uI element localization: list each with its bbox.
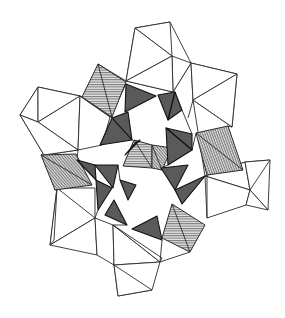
polyhedron-edge xyxy=(192,133,196,150)
octahedron-face xyxy=(95,218,114,265)
polyhedron-edge xyxy=(118,165,120,180)
polyhedron-edge xyxy=(182,110,192,134)
dark-tetrahedron xyxy=(125,84,156,112)
dark-tetrahedron xyxy=(132,216,162,240)
dark-tetrahedron xyxy=(105,200,127,225)
polyhedra-diagram xyxy=(0,0,285,318)
hatched-polyhedron xyxy=(196,126,243,175)
dark-tetrahedron xyxy=(120,180,136,200)
polyhedron-edge xyxy=(160,252,190,262)
polyhedral-structure-figure xyxy=(0,0,285,318)
hatched-polyhedron xyxy=(162,204,205,252)
polyhedron-edge xyxy=(188,100,193,118)
hatched-polyhedron xyxy=(123,140,152,168)
